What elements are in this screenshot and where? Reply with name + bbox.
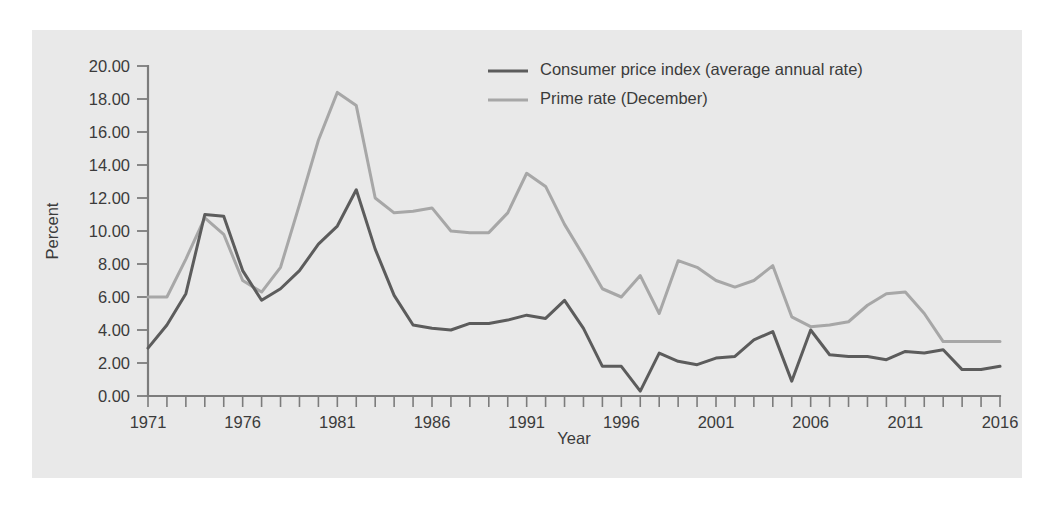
data-series-group bbox=[148, 92, 1000, 391]
y-tick-label: 4.00 bbox=[98, 321, 130, 339]
y-tick-label: 12.00 bbox=[89, 189, 130, 207]
x-tick-label: 2016 bbox=[982, 413, 1019, 431]
legend: Consumer price index (average annual rat… bbox=[488, 60, 863, 107]
x-tick-label: 1976 bbox=[224, 413, 261, 431]
y-axis-title: Percent bbox=[43, 202, 61, 259]
legend-label: Consumer price index (average annual rat… bbox=[540, 60, 863, 78]
x-tick-label: 1981 bbox=[319, 413, 356, 431]
x-axis: 1971197619811986199119962001200620112016 bbox=[130, 396, 1019, 431]
y-tick-marks bbox=[137, 66, 148, 396]
x-tick-label: 1986 bbox=[414, 413, 451, 431]
y-tick-label: 20.00 bbox=[89, 57, 130, 75]
y-tick-labels: 0.002.004.006.008.0010.0012.0014.0016.00… bbox=[89, 57, 130, 405]
x-tick-label: 1991 bbox=[508, 413, 545, 431]
x-axis-title: Year bbox=[557, 429, 591, 447]
figure: 0.002.004.006.008.0010.0012.0014.0016.00… bbox=[0, 0, 1052, 507]
x-tick-label: 1971 bbox=[130, 413, 167, 431]
x-tick-label: 2001 bbox=[698, 413, 735, 431]
x-tick-marks bbox=[148, 396, 1000, 407]
y-tick-label: 6.00 bbox=[98, 288, 130, 306]
legend-label: Prime rate (December) bbox=[540, 89, 708, 107]
y-tick-label: 16.00 bbox=[89, 123, 130, 141]
y-axis: 0.002.004.006.008.0010.0012.0014.0016.00… bbox=[89, 57, 148, 405]
x-tick-label: 2006 bbox=[792, 413, 829, 431]
series-line-prime-rate bbox=[148, 92, 1000, 341]
y-tick-label: 2.00 bbox=[98, 354, 130, 372]
x-tick-label: 2011 bbox=[888, 413, 923, 431]
line-chart: 0.002.004.006.008.0010.0012.0014.0016.00… bbox=[0, 0, 1052, 507]
y-tick-label: 0.00 bbox=[98, 387, 130, 405]
y-tick-label: 14.00 bbox=[89, 156, 130, 174]
y-tick-label: 18.00 bbox=[89, 90, 130, 108]
x-tick-label: 1996 bbox=[603, 413, 640, 431]
y-tick-label: 8.00 bbox=[98, 255, 130, 273]
y-tick-label: 10.00 bbox=[89, 222, 130, 240]
series-line-consumer-price-index bbox=[148, 190, 1000, 391]
